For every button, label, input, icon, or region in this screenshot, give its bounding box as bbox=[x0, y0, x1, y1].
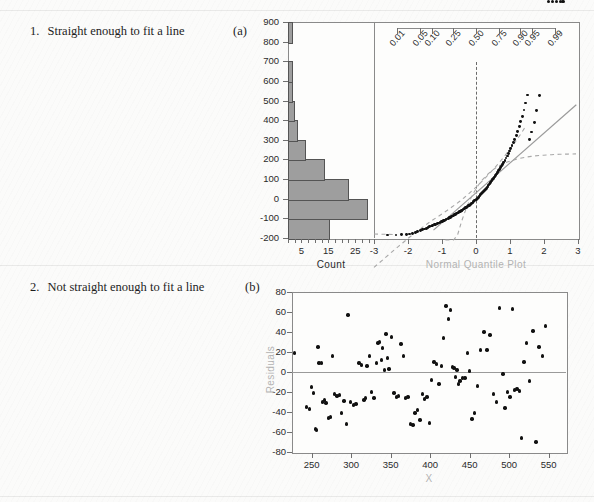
figure-page: 1. Straight enough to fit a line (a) 2. … bbox=[0, 0, 594, 502]
panel-b-frame bbox=[292, 292, 568, 454]
scatter-point bbox=[476, 384, 479, 387]
scatter-point bbox=[537, 345, 540, 348]
scatter-point bbox=[387, 367, 390, 370]
residual-x-tick bbox=[549, 453, 550, 458]
residual-x-tick-label: 400 bbox=[416, 459, 444, 470]
scatter-point bbox=[402, 354, 405, 357]
scatter-point bbox=[384, 332, 387, 335]
scatter-point bbox=[368, 354, 371, 357]
scatter-point bbox=[372, 396, 375, 399]
scatter-point bbox=[315, 428, 318, 431]
scatter-point bbox=[473, 411, 476, 414]
residual-y-tick bbox=[287, 352, 292, 353]
scatter-point bbox=[421, 392, 424, 395]
scatter-point bbox=[383, 368, 386, 371]
scatter-point bbox=[485, 348, 488, 351]
residual-x-tick bbox=[509, 453, 510, 458]
scatter-point bbox=[482, 330, 485, 333]
residual-x-tick bbox=[391, 453, 392, 458]
scatter-point bbox=[547, 0, 550, 3]
scatter-point bbox=[447, 317, 450, 320]
residual-x-tick-label: 450 bbox=[456, 459, 484, 470]
scatter-point bbox=[492, 392, 495, 395]
scatter-point bbox=[561, 0, 564, 3]
scatter-point bbox=[331, 354, 334, 357]
scatter-point bbox=[360, 363, 363, 366]
residual-y-tick bbox=[287, 432, 292, 433]
scatter-point bbox=[511, 307, 514, 310]
residual-x-tick bbox=[430, 453, 431, 458]
scatter-point bbox=[457, 382, 460, 385]
scatter-point bbox=[442, 336, 445, 339]
scatter-point bbox=[380, 358, 383, 361]
scatter-point bbox=[541, 354, 544, 357]
scatter-point bbox=[444, 304, 447, 307]
scatter-point bbox=[466, 351, 469, 354]
scatter-point bbox=[425, 395, 428, 398]
residual-x-axis-label: X bbox=[292, 473, 566, 484]
scatter-point bbox=[501, 372, 504, 375]
residual-x-tick bbox=[312, 453, 313, 458]
scatter-point bbox=[413, 411, 416, 414]
scatter-point bbox=[534, 440, 537, 443]
scatter-point bbox=[416, 408, 419, 411]
scatter-point bbox=[390, 335, 393, 338]
scatter-point bbox=[435, 362, 438, 365]
residual-y-tick bbox=[287, 412, 292, 413]
scatter-point bbox=[508, 395, 511, 398]
scatter-point bbox=[555, 0, 558, 3]
scatter-point bbox=[463, 376, 466, 379]
residual-y-tick bbox=[287, 292, 292, 293]
scatter-point bbox=[518, 389, 521, 392]
residual-x-tick-label: 550 bbox=[535, 459, 563, 470]
residual-y-tick-label: -60 bbox=[250, 426, 286, 437]
scatter-point bbox=[293, 351, 296, 354]
scatter-point bbox=[525, 341, 528, 344]
scatter-point bbox=[378, 340, 381, 343]
residual-x-tick-label: 500 bbox=[495, 459, 523, 470]
scatter-point bbox=[455, 368, 458, 371]
scatter-point bbox=[375, 361, 378, 364]
scatter-point bbox=[418, 418, 421, 421]
scatter-point bbox=[397, 394, 400, 397]
residual-x-tick bbox=[470, 453, 471, 458]
scatter-point bbox=[324, 401, 327, 404]
residual-y-tick-label: 60 bbox=[250, 306, 286, 317]
scatter-point bbox=[364, 396, 367, 399]
scatter-point bbox=[495, 400, 498, 403]
residual-x-tick bbox=[351, 453, 352, 458]
scatter-point bbox=[544, 324, 547, 327]
scatter-point bbox=[411, 423, 414, 426]
scatter-point bbox=[345, 422, 348, 425]
residual-y-tick bbox=[287, 312, 292, 313]
scatter-point bbox=[392, 391, 395, 394]
residual-y-tick-label: -80 bbox=[250, 446, 286, 457]
scatter-point bbox=[406, 395, 409, 398]
scatter-point bbox=[458, 379, 461, 382]
residual-y-tick bbox=[287, 452, 292, 453]
scatter-point bbox=[531, 329, 534, 332]
residual-zero-line bbox=[292, 372, 566, 373]
scatter-point bbox=[468, 369, 471, 372]
scatter-point bbox=[346, 313, 349, 316]
residual-x-tick-label: 300 bbox=[337, 459, 365, 470]
scatter-point bbox=[386, 356, 389, 359]
scatter-point bbox=[470, 417, 473, 420]
scatter-point bbox=[308, 407, 311, 410]
scatter-point bbox=[522, 360, 525, 363]
residual-y-tick bbox=[287, 332, 292, 333]
scatter-point bbox=[312, 391, 315, 394]
scatter-point bbox=[551, 0, 554, 3]
scatter-point bbox=[320, 361, 323, 364]
residual-y-tick bbox=[287, 392, 292, 393]
panel-b-canvas: -80-60-40-200204060802503003504004505005… bbox=[0, 0, 594, 502]
residual-x-tick-label: 350 bbox=[377, 459, 405, 470]
scatter-point bbox=[437, 382, 440, 385]
scatter-point bbox=[399, 342, 402, 345]
scatter-point bbox=[440, 364, 443, 367]
scatter-point bbox=[354, 402, 357, 405]
scatter-point bbox=[506, 390, 509, 393]
residual-y-axis-label: Residuals bbox=[265, 320, 276, 420]
scatter-point bbox=[342, 399, 345, 402]
scatter-point bbox=[428, 421, 431, 424]
